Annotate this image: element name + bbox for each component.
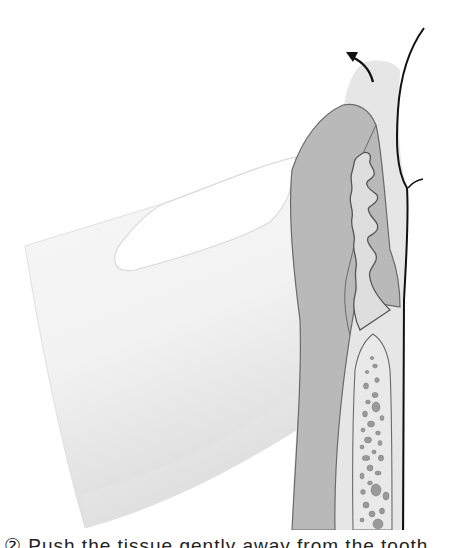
alveolar-bone (353, 334, 392, 530)
caption-text: ② Push the tissue gently away from the t… (4, 533, 449, 548)
dental-illustration (0, 0, 449, 530)
finger (25, 157, 312, 528)
tissue-branch-line (408, 179, 423, 188)
figure-caption: ② Push the tissue gently away from the t… (4, 533, 449, 548)
